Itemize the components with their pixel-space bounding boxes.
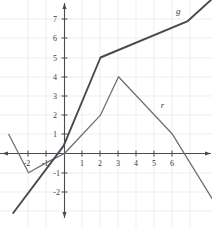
y-tick-label-1: 1: [53, 130, 57, 139]
y-tick-label-7: 7: [53, 15, 57, 24]
axes: [0, 3, 211, 218]
y-axis-arrow-down: [62, 212, 66, 218]
x-tick-label-2: 2: [98, 159, 102, 168]
x-axis-arrow: [205, 151, 211, 155]
curve-label-r: r: [161, 100, 165, 110]
y-tick-labels: 7 6 5 4 3 2 1 -1 -2: [53, 15, 60, 197]
grid-lines: [0, 0, 212, 228]
series-line-r: [9, 77, 212, 199]
curve-label-g: g: [176, 6, 181, 16]
chart-canvas: -2 -1 1 2 3 4 5 6 7 6 5 4 3 2 1 -1 -2: [0, 0, 212, 228]
y-tick-label-m2: -2: [53, 188, 60, 197]
y-tick-label-3: 3: [53, 92, 57, 101]
x-tick-label-6: 6: [170, 159, 174, 168]
line-chart: -2 -1 1 2 3 4 5 6 7 6 5 4 3 2 1 -1 -2: [0, 0, 212, 228]
x-tick-label-3: 3: [116, 159, 120, 168]
x-tick-label-4: 4: [134, 159, 138, 168]
x-tick-label-5: 5: [152, 159, 156, 168]
y-tick-label-2: 2: [53, 111, 57, 120]
x-tick-label-1: 1: [80, 159, 84, 168]
y-axis-arrow: [62, 3, 66, 9]
y-tick-label-5: 5: [53, 54, 57, 63]
y-tick-label-m1: -1: [53, 169, 60, 178]
x-tick-label-m2: -2: [24, 159, 31, 168]
x-axis-arrow-left: [2, 151, 8, 155]
series-layer: [9, 0, 212, 213]
series-line-g: [13, 0, 212, 213]
y-tick-label-4: 4: [53, 73, 57, 82]
y-tick-label-6: 6: [53, 34, 57, 43]
